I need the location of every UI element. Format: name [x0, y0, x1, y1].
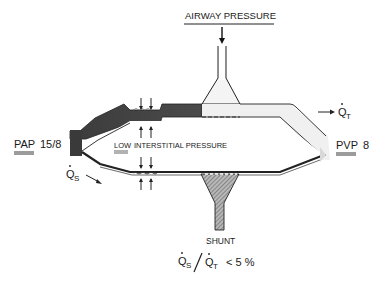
pvp-value: 8: [363, 139, 369, 151]
lung-perfusion-diagram: AIRWAY PRESSURE: [0, 0, 382, 282]
ratio-value: < 5 %: [226, 256, 255, 268]
svg-text:T: T: [346, 112, 351, 121]
shunt-fraction: Q S Q T < 5 %: [178, 252, 255, 272]
shunt-label: SHUNT: [206, 236, 235, 246]
down-arrow-icon: [219, 38, 225, 44]
pap-label: PAP: [14, 138, 35, 150]
alveolus: [202, 46, 240, 107]
airway-pressure-label-group: AIRWAY PRESSURE: [184, 10, 276, 44]
pvp-label: PVP: [336, 139, 358, 151]
up-arrow-icon: [149, 178, 153, 182]
low-label: LOW: [114, 141, 132, 150]
pap-value: 15/8: [40, 138, 61, 150]
airway-pressure-label: AIRWAY PRESSURE: [185, 10, 276, 21]
svg-text:T: T: [213, 262, 218, 271]
svg-text:S: S: [186, 261, 191, 270]
qt-flow-label: Q T: [318, 103, 351, 121]
up-arrow-icon: [139, 178, 143, 182]
fraction-slash: [194, 253, 202, 272]
svg-text:S: S: [74, 174, 79, 183]
interstitial-pressure-label: INTERSTITIAL PRESSURE: [134, 141, 227, 150]
arrow-icon: [96, 179, 102, 184]
qs-flow-label: Q S: [66, 165, 102, 184]
right-arrow-icon: [330, 110, 335, 115]
shunt-funnel: [201, 174, 239, 230]
down-arrow-icon: [149, 106, 153, 110]
